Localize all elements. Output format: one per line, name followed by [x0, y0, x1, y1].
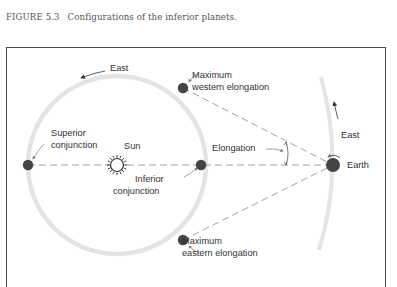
label-earth: Earth [347, 160, 369, 170]
label-superior-2: conjunction [51, 140, 97, 150]
label-inferior-2: conjunction [113, 186, 159, 196]
planet-max-western-elongation [178, 83, 188, 93]
label-max-western-2: western elongation [191, 82, 269, 92]
leader-inferior [184, 168, 197, 177]
leader-elongation [266, 149, 283, 151]
label-elongation: Elongation [212, 143, 255, 153]
label-sun: Sun [124, 141, 140, 151]
leader-superior [33, 144, 44, 159]
east-arrow-outer-icon [334, 102, 338, 119]
label-max-eastern-2: eastern elongation [182, 248, 258, 258]
planet-inferior-conjunction [196, 160, 206, 170]
label-superior-1: Superior [51, 128, 86, 138]
label-east-outer: East [341, 130, 360, 140]
label-inferior-1: Inferior [135, 174, 164, 184]
label-east-inner: East [110, 63, 129, 73]
earth-icon [326, 158, 340, 172]
label-max-eastern-1: Maximum [182, 236, 222, 246]
label-max-western-1: Maximum [192, 70, 232, 80]
sun-icon [107, 155, 127, 175]
planet-superior-conjunction [23, 160, 33, 170]
